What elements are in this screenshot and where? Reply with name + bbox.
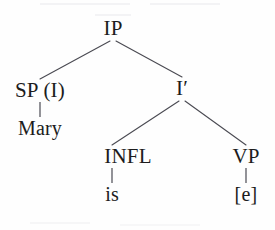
edge-ip-to-spi [40,41,110,79]
node-empty-category: [e] [235,184,258,204]
edge-ibar-to-vp [185,101,246,145]
syntax-tree-figure: IP SP (I) Mary I′ INFL is VP [e] [0,0,275,230]
node-vp: VP [232,146,259,167]
edge-ibar-to-infl [112,101,179,145]
edge-ip-to-ibar [116,41,182,77]
node-infl: INFL [104,146,151,167]
node-i-bar: I′ [176,78,188,99]
node-ip: IP [103,18,122,39]
node-spec-i: SP (I) [15,80,65,101]
node-is: is [105,184,119,204]
node-mary: Mary [18,118,62,138]
